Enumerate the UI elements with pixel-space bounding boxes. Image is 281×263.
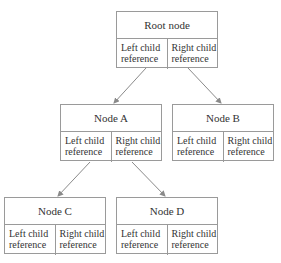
right-child-reference: Right child reference bbox=[111, 132, 162, 162]
root-node: Root node Left child reference Right chi… bbox=[116, 11, 218, 68]
right-child-reference: Right child reference bbox=[167, 225, 218, 255]
left-child-reference: Left child reference bbox=[173, 132, 223, 162]
node-label: Root node bbox=[117, 12, 217, 39]
node-label: Node B bbox=[173, 105, 273, 132]
right-child-reference: Right child reference bbox=[223, 132, 274, 162]
node-c: Node C Left child reference Right child … bbox=[4, 197, 106, 254]
node-label: Node D bbox=[117, 198, 217, 225]
right-child-reference: Right child reference bbox=[55, 225, 106, 255]
node-a: Node A Left child reference Right child … bbox=[60, 104, 162, 161]
left-child-reference: Left child reference bbox=[61, 132, 111, 162]
node-label: Node A bbox=[61, 105, 161, 132]
edge-a-to-d bbox=[132, 162, 165, 196]
node-d: Node D Left child reference Right child … bbox=[116, 197, 218, 254]
node-label: Node C bbox=[5, 198, 105, 225]
right-child-reference: Right child reference bbox=[167, 39, 218, 69]
left-child-reference: Left child reference bbox=[117, 225, 167, 255]
left-child-reference: Left child reference bbox=[117, 39, 167, 69]
edge-a-to-c bbox=[58, 162, 90, 196]
edge-root-to-b bbox=[188, 68, 221, 103]
edge-root-to-a bbox=[114, 68, 146, 103]
node-b: Node B Left child reference Right child … bbox=[172, 104, 274, 161]
left-child-reference: Left child reference bbox=[5, 225, 55, 255]
